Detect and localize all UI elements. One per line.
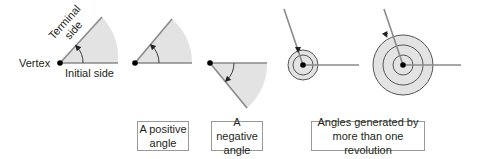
vertex-dot — [400, 62, 406, 68]
positive-angle-figure — [132, 19, 192, 66]
multi-revolution-caption: Angles generated by more than one revolu… — [311, 121, 425, 151]
vertex-dot — [300, 62, 306, 68]
angle-sector — [135, 19, 192, 63]
two-plus-revolutions-figure — [373, 9, 461, 95]
initial-side-label: Initial side — [65, 67, 114, 80]
caption-line2: more than one revolution — [312, 129, 424, 157]
caption-line1: A positive — [138, 122, 188, 136]
rotation-arrow-icon — [298, 49, 300, 50]
vertex-dot — [132, 60, 138, 66]
negative-angle-caption: A negative angle — [211, 121, 263, 151]
vertex-dot — [57, 60, 63, 66]
one-plus-revolution-figure — [284, 9, 359, 80]
vertex-dot — [207, 60, 213, 66]
caption-line2: angle — [212, 143, 262, 157]
caption-line2: angle — [138, 136, 188, 150]
caption-line1: A negative — [212, 115, 262, 143]
angle-sector — [210, 63, 267, 108]
rotation-arrow-icon — [386, 33, 388, 35]
caption-line1: Angles generated by — [312, 115, 424, 129]
negative-angle-figure — [207, 60, 267, 108]
vertex-label: Vertex — [19, 57, 50, 70]
positive-angle-caption: A positive angle — [137, 121, 189, 151]
